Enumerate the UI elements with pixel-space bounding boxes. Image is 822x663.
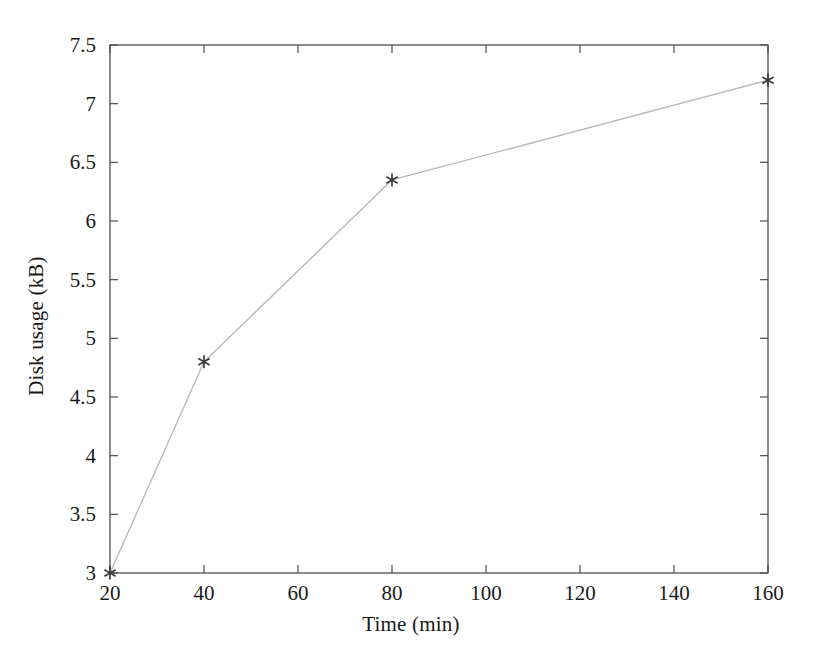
x-axis-tick-labels: 20406080100120140160 bbox=[100, 581, 784, 605]
line-chart-plot: 20406080100120140160 33.544.555.566.577.… bbox=[0, 0, 822, 663]
x-tick-label: 160 bbox=[752, 581, 784, 605]
y-axis-ticks bbox=[110, 45, 768, 573]
y-tick-label: 4.5 bbox=[70, 385, 96, 409]
y-axis-tick-labels: 33.544.555.566.577.5 bbox=[70, 33, 97, 585]
plot-frame bbox=[110, 45, 768, 573]
y-tick-label: 3.5 bbox=[70, 502, 96, 526]
x-axis-label: Time (min) bbox=[0, 612, 822, 637]
x-tick-label: 40 bbox=[194, 581, 215, 605]
y-tick-label: 6 bbox=[86, 209, 97, 233]
x-tick-label: 100 bbox=[470, 581, 502, 605]
y-tick-label: 7.5 bbox=[70, 33, 96, 57]
y-tick-label: 7 bbox=[86, 92, 97, 116]
chart-figure: 20406080100120140160 33.544.555.566.577.… bbox=[0, 0, 822, 663]
series-polyline bbox=[110, 80, 768, 573]
x-tick-label: 80 bbox=[382, 581, 403, 605]
data-point-marker bbox=[762, 74, 773, 87]
y-tick-label: 3 bbox=[86, 561, 97, 585]
x-axis-ticks bbox=[110, 45, 768, 573]
y-tick-label: 4 bbox=[86, 444, 97, 468]
y-tick-label: 6.5 bbox=[70, 150, 96, 174]
x-tick-label: 120 bbox=[564, 581, 596, 605]
y-axis-label: Disk usage (kB) bbox=[24, 226, 49, 426]
data-point-markers bbox=[104, 74, 773, 580]
x-tick-label: 60 bbox=[288, 581, 309, 605]
data-series-line bbox=[110, 80, 768, 573]
y-tick-label: 5 bbox=[86, 326, 97, 350]
y-tick-label: 5.5 bbox=[70, 268, 96, 292]
x-tick-label: 20 bbox=[100, 581, 121, 605]
x-tick-label: 140 bbox=[658, 581, 690, 605]
